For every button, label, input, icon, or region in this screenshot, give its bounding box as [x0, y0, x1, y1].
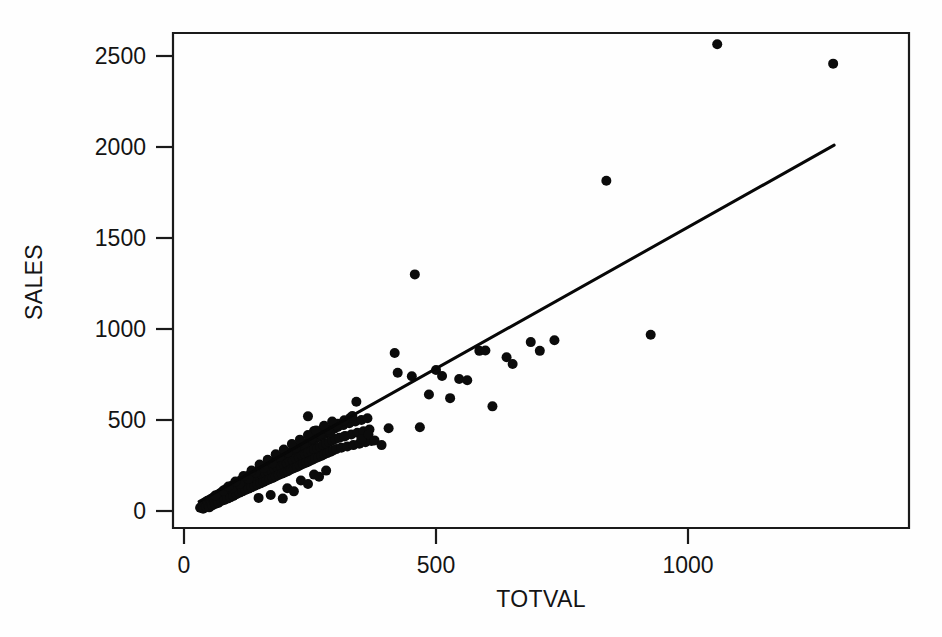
x-tick-label: 1000	[662, 552, 713, 578]
y-tick-label: 2000	[95, 134, 146, 160]
data-point	[535, 346, 545, 356]
x-tick-label: 500	[417, 552, 455, 578]
y-tick-label: 1000	[95, 316, 146, 342]
data-point	[339, 431, 349, 441]
data-point	[303, 411, 313, 421]
data-point	[362, 413, 372, 423]
data-point	[646, 330, 656, 340]
data-point	[424, 390, 434, 400]
data-point	[437, 371, 447, 381]
x-axis-title: TOTVAL	[496, 586, 586, 612]
data-point	[377, 440, 387, 450]
data-point	[351, 397, 361, 407]
chart-svg: 05001000 05001000150020002500 TOTVAL SAL…	[0, 0, 942, 637]
data-point	[712, 39, 722, 49]
data-point	[254, 493, 264, 503]
data-point	[487, 401, 497, 411]
data-point	[289, 486, 299, 496]
data-point	[390, 348, 400, 358]
data-point	[828, 59, 838, 69]
y-tick-label: 2500	[95, 43, 146, 69]
x-tick-label: 0	[178, 552, 191, 578]
data-point	[393, 368, 403, 378]
data-point	[549, 335, 559, 345]
data-point	[303, 479, 313, 489]
data-point	[508, 359, 518, 369]
data-point	[462, 375, 472, 385]
data-point	[445, 393, 455, 403]
data-point	[384, 423, 394, 433]
data-point	[415, 422, 425, 432]
data-point	[321, 466, 331, 476]
data-point	[278, 494, 288, 504]
scatter-plot-figure: 05001000 05001000150020002500 TOTVAL SAL…	[0, 0, 942, 637]
y-axis-title: SALES	[21, 244, 47, 320]
y-tick-label: 500	[108, 407, 146, 433]
data-point	[601, 176, 611, 186]
y-tick-label: 1500	[95, 225, 146, 251]
y-tick-label: 0	[133, 498, 146, 524]
data-point	[410, 269, 420, 279]
data-point	[266, 490, 276, 500]
data-point	[480, 345, 490, 355]
data-point	[526, 337, 536, 347]
